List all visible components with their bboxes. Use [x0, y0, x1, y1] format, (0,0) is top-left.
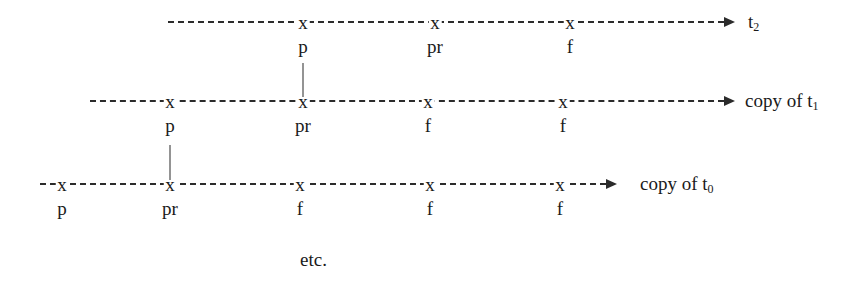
connector-t2-p-to-t1 [303, 63, 304, 97]
row-caption-text: copy of t [745, 90, 813, 111]
axis-line [168, 21, 724, 23]
tick-label: p [298, 37, 308, 56]
tick-marker: x [56, 175, 69, 194]
tick-marker: x [424, 175, 437, 194]
arrow-head-icon [724, 17, 735, 27]
tick-label: f [567, 37, 573, 56]
tick-label: f [557, 199, 563, 218]
axis-line [40, 183, 606, 185]
tick-label: f [560, 116, 566, 135]
tick-label: pr [427, 37, 443, 56]
row-caption-text: copy of t [640, 173, 708, 194]
row-caption-row-copy-t0: copy of t0 [640, 174, 714, 193]
row-caption-row-t2: t2 [748, 12, 759, 31]
row-caption-subscript: 2 [753, 20, 759, 34]
timeline-diagram: xpxprxft2xpxprxfxfcopy of t1xpxprxfxfxfc… [0, 0, 860, 282]
tick-marker: x [564, 13, 577, 32]
tick-label: p [57, 199, 67, 218]
tick-label: p [165, 116, 175, 135]
tick-marker: x [557, 92, 570, 111]
etc-note: etc. [300, 250, 327, 269]
tick-label: f [425, 116, 431, 135]
tick-marker: x [297, 13, 310, 32]
tick-label: pr [162, 199, 178, 218]
row-caption-subscript: 1 [813, 99, 819, 113]
tick-label: f [297, 199, 303, 218]
tick-marker: x [164, 92, 177, 111]
tick-marker: x [422, 92, 435, 111]
tick-marker: x [429, 13, 442, 32]
tick-marker: x [554, 175, 567, 194]
tick-marker: x [294, 175, 307, 194]
row-caption-subscript: 0 [708, 182, 714, 196]
arrow-head-icon [606, 179, 617, 189]
connector-t1-p-to-t0 [170, 145, 171, 180]
axis-line [90, 100, 724, 102]
tick-label: pr [295, 116, 311, 135]
arrow-head-icon [724, 96, 735, 106]
tick-label: f [427, 199, 433, 218]
row-caption-row-copy-t1: copy of t1 [745, 91, 819, 110]
